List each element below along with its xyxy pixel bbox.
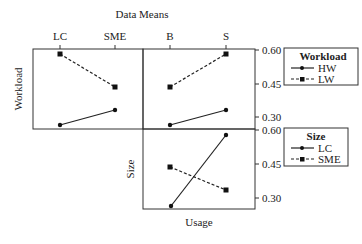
legend-workload: Workload HW LW [284,48,358,85]
square-marker-icon [113,85,118,90]
series-sme-usage [168,165,229,193]
legend-workload-title: Workload [299,50,346,62]
legend-size: Size LC SME [284,128,348,166]
y-tick-045-bottom: 0.45 [262,158,282,170]
square-marker-icon [224,52,229,57]
square-marker-icon [300,77,305,82]
circle-marker-icon [113,108,117,112]
x-tick-sme: SME [104,30,127,42]
circle-marker-icon [169,204,173,208]
x-tick-lc: LC [53,30,67,42]
chart-title: Data Means [116,8,169,20]
circle-marker-icon [300,66,304,70]
circle-marker-icon [300,146,304,150]
circle-marker-icon [58,123,62,127]
y-tick-060-top: 0.60 [262,44,282,56]
y-tick-030-top: 0.30 [262,111,282,123]
circle-marker-icon [168,123,172,127]
square-marker-icon [224,188,229,193]
legend-size-title: Size [307,130,326,142]
square-marker-icon [168,85,173,90]
x-label-usage: Usage [185,216,213,228]
y-tick-marks [255,50,259,198]
legend-sme-label: SME [318,153,341,165]
series-lw-usage [168,52,229,90]
top-tick-marks [60,45,226,49]
series-hw-size [58,108,117,127]
square-marker-icon [58,52,63,57]
x-tick-b: B [166,30,173,42]
square-marker-icon [168,165,173,170]
row-label-size: Size [124,159,136,178]
y-tick-030-bottom: 0.30 [262,192,282,204]
series-lc-usage [169,133,228,208]
interaction-plot: Data Means LC SME B S Workload Size 0.60… [0,0,362,244]
x-tick-s: S [223,30,229,42]
y-tick-060-bottom: 0.60 [262,124,282,136]
circle-marker-icon [224,133,228,137]
series-hw-usage [168,108,228,127]
row-label-workload: Workload [12,67,24,111]
series-lw-size [58,52,118,90]
circle-marker-icon [224,108,228,112]
y-tick-045-top: 0.45 [262,78,282,90]
square-marker-icon [300,157,305,162]
legend-lw-label: LW [318,73,335,85]
